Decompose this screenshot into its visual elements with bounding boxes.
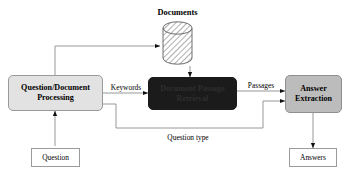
keywords-edge-label: Keywords xyxy=(104,83,148,92)
node-answers-output[interactable]: Answers xyxy=(289,148,337,167)
node-qdp-line1: Question/Document xyxy=(21,83,90,93)
passages-edge-label: Passages xyxy=(238,81,284,90)
node-answer-extraction[interactable]: Answer Extraction xyxy=(285,75,342,113)
node-dpr-line1: Document Passage xyxy=(160,84,225,94)
node-question-document-processing[interactable]: Question/Document Processing xyxy=(8,75,103,111)
node-document-passage-retrieval[interactable]: Document Passage Retrieval xyxy=(148,77,237,110)
node-question-input[interactable]: Question xyxy=(31,148,80,167)
node-qdp-line2: Processing xyxy=(37,93,74,103)
edge-processing-to-documents xyxy=(55,46,160,75)
documents-datastore-label: Documents xyxy=(140,8,215,17)
node-dpr-line2: Retrieval xyxy=(177,94,209,104)
node-ae-line1: Answer xyxy=(300,84,327,94)
question-type-edge-label: Question type xyxy=(148,133,228,142)
answers-output-label: Answers xyxy=(300,153,326,162)
architecture-diagram: Documents Question/Document Processing D… xyxy=(0,0,351,180)
node-ae-line2: Extraction xyxy=(295,94,332,104)
documents-cylinder-shape xyxy=(163,22,192,64)
question-input-label: Question xyxy=(42,153,69,162)
